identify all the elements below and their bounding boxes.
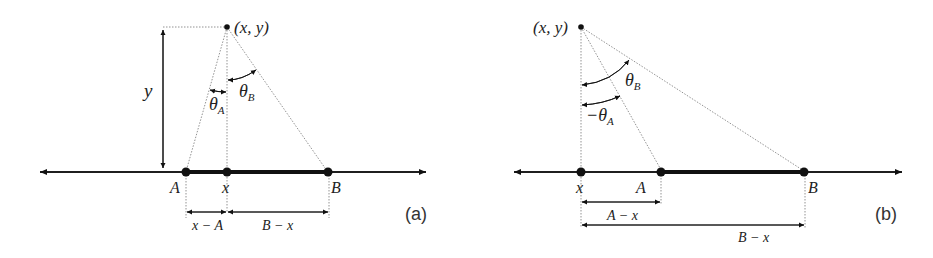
dim-label-b-minus-x: B − x (262, 218, 294, 233)
axis-label-x: x (575, 179, 583, 196)
panel-a: (x, y) y θA θB A x B x − A B − x (a) (40, 18, 427, 233)
axis-label-a: A (635, 179, 646, 196)
height-label: y (142, 80, 153, 101)
panel-b: (x, y) θB −θA x A B A − x B − x (b) (514, 18, 902, 245)
panel-label-b: (b) (875, 204, 897, 224)
dim-label-a-minus-x: A − x (606, 208, 639, 223)
point-b (324, 168, 333, 177)
ray-a (581, 27, 660, 168)
point-xy (224, 24, 230, 30)
ray-b (581, 27, 801, 169)
theta-b-label: θB (625, 70, 641, 92)
theta-b-label: θB (239, 81, 255, 103)
theta-a-label: −θA (586, 105, 614, 127)
point-b (800, 168, 809, 177)
axis-label-b: B (808, 179, 818, 196)
dim-label-x-minus-a: x − A (191, 218, 223, 233)
point-xy (578, 24, 584, 30)
ray-a (187, 27, 227, 168)
point-x (577, 168, 586, 177)
point-label: (x, y) (234, 18, 269, 37)
point-label: (x, y) (533, 18, 568, 37)
point-a (657, 168, 666, 177)
panel-label-a: (a) (405, 204, 427, 224)
point-a (182, 168, 191, 177)
axis-label-x: x (221, 179, 229, 196)
axis-label-b: B (331, 179, 341, 196)
point-x (223, 168, 232, 177)
axis-label-a: A (169, 179, 180, 196)
theta-a-label: θA (209, 94, 225, 116)
diagram-canvas: (x, y) y θA θB A x B x − A B − x (a) (0, 0, 933, 258)
dim-label-b-minus-x: B − x (738, 230, 770, 245)
